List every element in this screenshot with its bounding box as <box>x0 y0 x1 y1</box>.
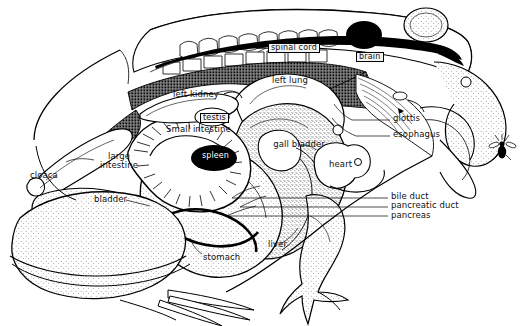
label-spinal-cord: spinal cord <box>268 43 320 53</box>
label-cloaca: cloaca <box>30 171 58 180</box>
label-small-intestine: Small intestine <box>166 125 231 134</box>
label-pancreatic-duct: pancreatic duct <box>391 201 459 210</box>
label-testis: testis <box>200 113 229 123</box>
label-esophagus: esophagus <box>393 130 440 139</box>
brain-mass <box>346 21 382 49</box>
label-large-intestine: large intestine <box>92 152 146 170</box>
frog-anatomy-figure: spinal cord brain left lung left kidney … <box>0 0 528 326</box>
label-left-kidney: left kidney <box>173 90 219 99</box>
label-left-lung: left lung <box>272 76 308 85</box>
label-liver: liver <box>268 240 287 249</box>
label-bladder: bladder <box>94 195 127 204</box>
cloaca-organ <box>27 178 45 196</box>
label-spleen: spleen <box>199 152 232 160</box>
label-glottis: glottis <box>393 114 420 123</box>
label-stomach: stomach <box>203 253 240 262</box>
label-gall-bladder: gall bladder <box>272 140 326 149</box>
label-brain: brain <box>356 52 384 62</box>
label-pancreas: pancreas <box>391 211 431 220</box>
anatomy-illustration <box>0 0 528 326</box>
label-heart: heart <box>329 160 352 169</box>
